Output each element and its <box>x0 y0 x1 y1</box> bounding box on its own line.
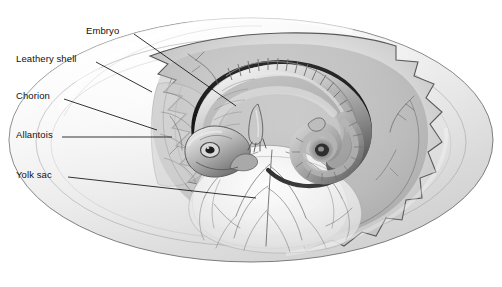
label-leathery-shell: Leathery shell <box>16 53 77 64</box>
tail-coil <box>309 138 335 162</box>
egg-diagram-illustration <box>0 0 502 287</box>
label-allantois: Allantois <box>16 129 53 140</box>
egg-interior <box>150 33 442 253</box>
label-chorion: Chorion <box>16 90 50 101</box>
diagram-canvas: Embryo Leathery shell Chorion Allantois … <box>0 0 502 287</box>
label-yolk-sac: Yolk sac <box>16 169 52 180</box>
label-embryo: Embryo <box>86 25 119 36</box>
